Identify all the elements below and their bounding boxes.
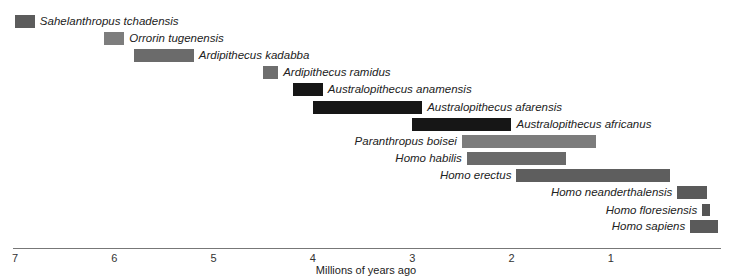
hominin-timeline-chart: Sahelanthropus tchadensisOrrorin tugenen… [0,0,732,278]
species-label: Homo habilis [395,152,461,165]
species-bar [690,220,718,233]
species-bar [412,118,511,131]
x-axis-line [13,248,721,249]
species-bar [104,32,124,45]
species-bar [293,83,323,96]
species-label: Homo floresiensis [606,204,697,217]
species-bar [462,135,596,148]
species-label: Sahelanthropus tchadensis [40,15,179,28]
species-label: Homo erectus [440,169,512,182]
species-bar [677,186,707,199]
species-bar [263,66,278,79]
x-tick-label: 3 [409,252,415,264]
species-label: Homo sapiens [612,220,686,233]
x-tick-label: 7 [12,252,18,264]
x-tick-label: 6 [111,252,117,264]
species-label: Paranthropus boisei [355,135,457,148]
species-label: Australopithecus afarensis [427,101,562,114]
species-bar [134,49,194,62]
x-axis-title: Millions of years ago [0,264,732,276]
species-bar [702,204,710,216]
species-bar [313,101,422,114]
species-label: Homo neanderthalensis [551,186,672,199]
species-label: Orrorin tugenensis [129,32,224,45]
species-label: Ardipithecus ramidus [283,66,390,79]
species-bar [467,152,566,165]
x-tick-label: 1 [608,252,614,264]
species-bar [516,169,670,182]
x-tick-label: 4 [310,252,316,264]
species-label: Australopithecus anamensis [328,83,472,96]
x-tick-label: 2 [508,252,514,264]
x-tick-label: 5 [211,252,217,264]
species-label: Australopithecus africanus [517,118,652,131]
species-label: Ardipithecus kadabba [199,49,310,62]
species-bar [15,15,35,28]
